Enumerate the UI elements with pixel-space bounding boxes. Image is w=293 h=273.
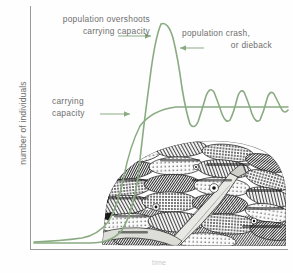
annotation-overshoot-line2: carrying capacity	[38, 26, 150, 38]
annotation-capacity-line2: capacity	[52, 108, 112, 120]
annotation-capacity-line1: carrying	[52, 96, 112, 108]
population-overshoot-figure: number of individuals time	[0, 0, 293, 273]
annotation-overshoot-line1: population overshoots	[38, 14, 150, 26]
carrying-capacity-curve	[34, 107, 288, 242]
annotation-overshoot: population overshoots carrying capacity	[38, 14, 150, 37]
annotation-capacity: carrying capacity	[52, 96, 112, 119]
annotation-crash-line1: population crash,	[182, 28, 288, 40]
annotation-crash-line2: or dieback	[182, 40, 288, 52]
population-curve	[34, 24, 288, 243]
annotation-crash: population crash, or dieback	[182, 28, 288, 51]
